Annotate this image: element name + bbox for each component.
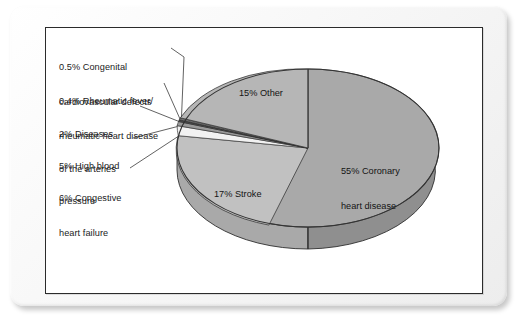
leader-line-congenital <box>171 48 184 117</box>
leader-line-rheumatic <box>164 83 180 119</box>
callout-chf: 6% Congestive heart failure <box>59 170 121 263</box>
chart-frame: 0.5% Congenital cardiovascular defects 0… <box>45 27 483 294</box>
slice-label-other: 15% Other <box>239 88 283 100</box>
slice-label-coronary-line2: heart disease <box>341 201 400 213</box>
callout-chf-line1: 6% Congestive <box>59 193 121 205</box>
slice-label-coronary: 55% Coronary heart disease <box>341 142 400 236</box>
slice-label-stroke: 17% Stroke <box>214 189 262 201</box>
callout-chf-line2: heart failure <box>59 228 121 240</box>
screenshot-root: 0.5% Congenital cardiovascular defects 0… <box>0 0 524 321</box>
slice-label-coronary-line1: 55% Coronary <box>341 166 400 178</box>
